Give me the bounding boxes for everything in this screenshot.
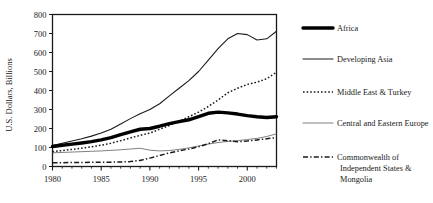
y-axis-ticks: 0100200300400500600700800: [34, 10, 53, 172]
x-tick-label: 1980: [44, 174, 61, 184]
legend-label-cont: Independent States &: [340, 164, 412, 173]
legend-label[interactable]: Africa: [337, 24, 359, 33]
y-tick-label: 300: [34, 105, 47, 115]
y-tick-label: 500: [34, 67, 47, 77]
x-tick-label: 1985: [93, 174, 110, 184]
chart-root: U.S. Dollars, Billions 01002003004005006…: [0, 0, 433, 203]
x-tick-label: 1990: [141, 174, 158, 184]
x-tick-label: 2000: [239, 174, 256, 184]
legend-label[interactable]: Commonwealth of: [337, 153, 399, 162]
y-tick-label: 800: [34, 10, 47, 20]
y-tick-label: 200: [34, 124, 47, 134]
chart-legend: AfricaDeveloping AsiaMiddle East & Turke…: [303, 24, 429, 184]
x-tick-label: 1995: [190, 174, 207, 184]
y-tick-label: 600: [34, 48, 47, 58]
x-axis-ticks: 19801985199019952000: [44, 167, 256, 184]
legend-label[interactable]: Central and Eastern Europe: [337, 119, 429, 128]
y-tick-label: 400: [34, 86, 47, 96]
legend-label[interactable]: Middle East & Turkey: [337, 88, 412, 97]
y-axis-title: U.S. Dollars, Billions: [4, 58, 14, 131]
y-tick-label: 0: [42, 162, 46, 172]
line-chart: U.S. Dollars, Billions 01002003004005006…: [0, 0, 433, 203]
legend-label[interactable]: Developing Asia: [337, 55, 393, 64]
legend-label-cont: Mongolia: [340, 175, 373, 184]
y-tick-label: 100: [34, 143, 47, 153]
y-tick-label: 700: [34, 29, 47, 39]
